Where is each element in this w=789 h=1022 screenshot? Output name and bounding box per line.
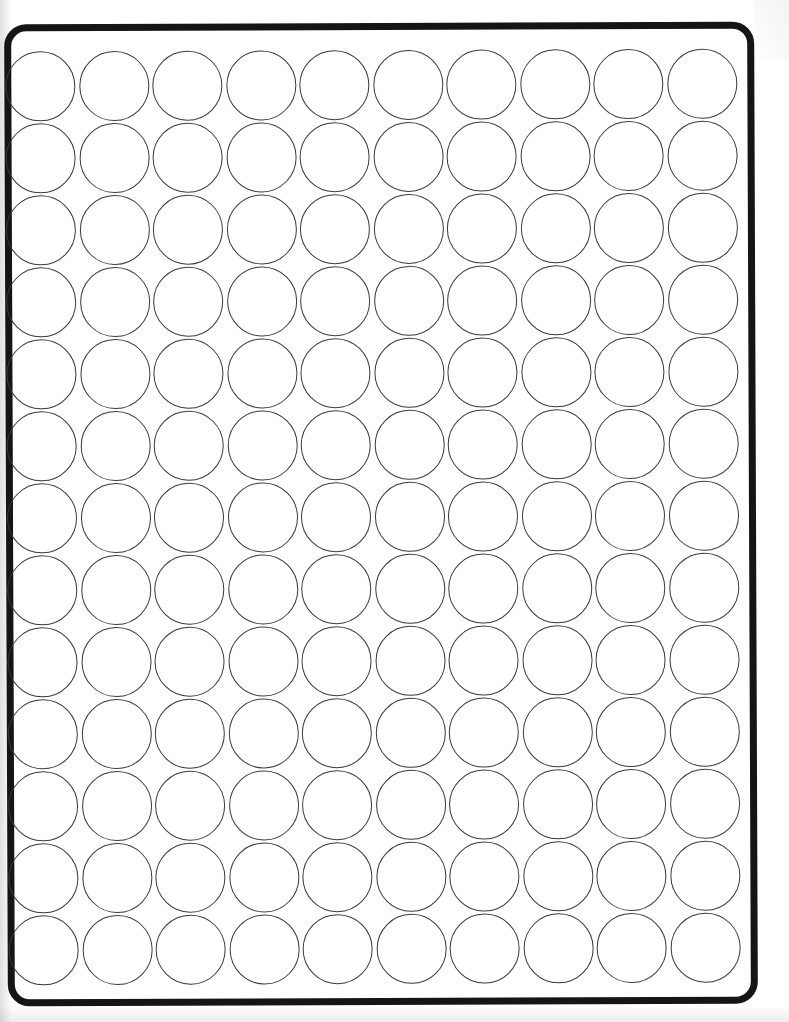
circle-label[interactable] xyxy=(5,51,75,121)
circle-label[interactable] xyxy=(154,483,224,553)
circle-label[interactable] xyxy=(80,411,150,481)
circle-label[interactable] xyxy=(154,627,224,697)
circle-label[interactable] xyxy=(155,843,225,913)
circle-label[interactable] xyxy=(228,626,298,696)
circle-label[interactable] xyxy=(300,266,370,336)
circle-label[interactable] xyxy=(522,625,592,695)
circle-label[interactable] xyxy=(667,121,737,191)
circle-label[interactable] xyxy=(299,50,369,120)
circle-label[interactable] xyxy=(375,626,445,696)
circle-label[interactable] xyxy=(376,914,446,984)
circle-label[interactable] xyxy=(670,913,740,983)
circle-label[interactable] xyxy=(79,51,149,121)
circle-label[interactable] xyxy=(152,123,222,193)
circle-label[interactable] xyxy=(5,123,75,193)
circle-label[interactable] xyxy=(226,50,296,120)
circle-label[interactable] xyxy=(152,51,222,121)
circle-label[interactable] xyxy=(596,697,666,767)
circle-label[interactable] xyxy=(669,625,739,695)
circle-label[interactable] xyxy=(670,841,740,911)
circle-label[interactable] xyxy=(373,122,443,192)
circle-label[interactable] xyxy=(6,267,76,337)
circle-label[interactable] xyxy=(301,554,371,624)
circle-label[interactable] xyxy=(521,265,591,335)
circle-label[interactable] xyxy=(449,769,519,839)
circle-label[interactable] xyxy=(300,194,370,264)
circle-label[interactable] xyxy=(301,626,371,696)
circle-label[interactable] xyxy=(668,265,738,335)
circle-label[interactable] xyxy=(7,627,77,697)
circle-label[interactable] xyxy=(302,842,372,912)
circle-label[interactable] xyxy=(82,843,152,913)
circle-label[interactable] xyxy=(449,841,519,911)
circle-label[interactable] xyxy=(80,339,150,409)
circle-label[interactable] xyxy=(228,770,298,840)
circle-label[interactable] xyxy=(374,482,444,552)
circle-label[interactable] xyxy=(374,338,444,408)
circle-label[interactable] xyxy=(596,769,666,839)
circle-label[interactable] xyxy=(522,697,592,767)
circle-label[interactable] xyxy=(593,121,663,191)
circle-label[interactable] xyxy=(595,481,665,551)
circle-label[interactable] xyxy=(82,915,152,985)
circle-label[interactable] xyxy=(302,770,372,840)
circle-label[interactable] xyxy=(79,195,149,265)
circle-label[interactable] xyxy=(81,555,151,625)
circle-label[interactable] xyxy=(299,122,369,192)
circle-label[interactable] xyxy=(668,337,738,407)
circle-label[interactable] xyxy=(227,410,297,480)
circle-label[interactable] xyxy=(448,409,518,479)
circle-label[interactable] xyxy=(596,841,666,911)
circle-label[interactable] xyxy=(523,913,593,983)
circle-label[interactable] xyxy=(301,482,371,552)
circle-label[interactable] xyxy=(594,337,664,407)
circle-label[interactable] xyxy=(8,699,78,769)
circle-label[interactable] xyxy=(228,698,298,768)
circle-label[interactable] xyxy=(669,769,739,839)
circle-label[interactable] xyxy=(229,842,299,912)
circle-label[interactable] xyxy=(595,409,665,479)
circle-label[interactable] xyxy=(375,698,445,768)
circle-label[interactable] xyxy=(7,483,77,553)
circle-label[interactable] xyxy=(374,410,444,480)
circle-label[interactable] xyxy=(80,267,150,337)
circle-label[interactable] xyxy=(6,339,76,409)
circle-label[interactable] xyxy=(668,409,738,479)
circle-label[interactable] xyxy=(8,771,78,841)
circle-label[interactable] xyxy=(81,699,151,769)
circle-label[interactable] xyxy=(375,554,445,624)
circle-label[interactable] xyxy=(521,337,591,407)
circle-label[interactable] xyxy=(156,915,226,985)
circle-label[interactable] xyxy=(6,195,76,265)
circle-label[interactable] xyxy=(448,481,518,551)
circle-label[interactable] xyxy=(303,914,373,984)
circle-label[interactable] xyxy=(301,410,371,480)
circle-label[interactable] xyxy=(520,193,590,263)
circle-label[interactable] xyxy=(375,770,445,840)
circle-label[interactable] xyxy=(447,265,517,335)
circle-label[interactable] xyxy=(227,266,297,336)
circle-label[interactable] xyxy=(449,697,519,767)
circle-label[interactable] xyxy=(595,625,665,695)
circle-label[interactable] xyxy=(450,913,520,983)
circle-label[interactable] xyxy=(373,194,443,264)
circle-label[interactable] xyxy=(226,194,296,264)
circle-label[interactable] xyxy=(447,337,517,407)
circle-label[interactable] xyxy=(153,339,223,409)
circle-label[interactable] xyxy=(300,338,370,408)
circle-label[interactable] xyxy=(81,771,151,841)
circle-label[interactable] xyxy=(7,555,77,625)
circle-label[interactable] xyxy=(7,411,77,481)
circle-label[interactable] xyxy=(79,123,149,193)
circle-label[interactable] xyxy=(668,481,738,551)
circle-label[interactable] xyxy=(520,49,590,119)
circle-label[interactable] xyxy=(226,122,296,192)
circle-label[interactable] xyxy=(8,843,78,913)
circle-label[interactable] xyxy=(448,625,518,695)
circle-label[interactable] xyxy=(154,411,224,481)
circle-label[interactable] xyxy=(595,553,665,623)
circle-label[interactable] xyxy=(154,555,224,625)
circle-label[interactable] xyxy=(81,627,151,697)
circle-label[interactable] xyxy=(447,193,517,263)
circle-label[interactable] xyxy=(523,841,593,911)
